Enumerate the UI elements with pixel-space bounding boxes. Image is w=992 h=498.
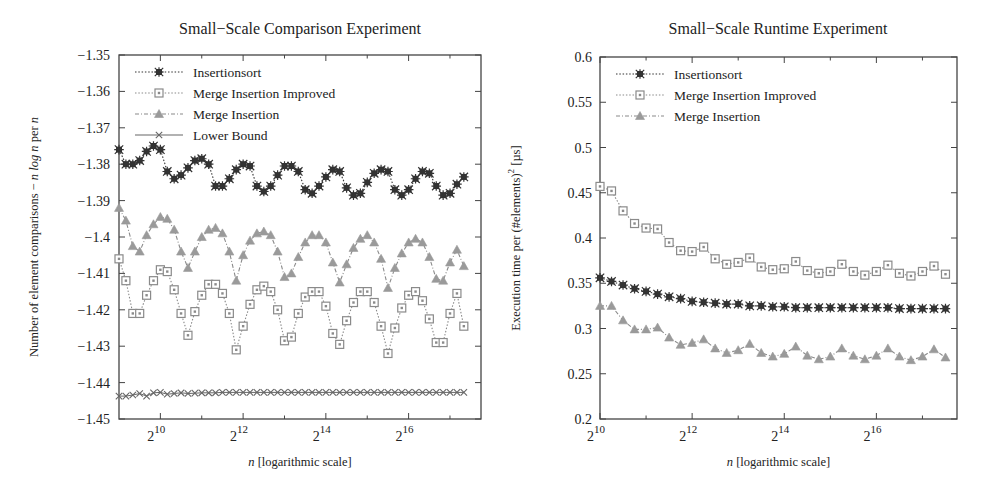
triangle-marker [425, 253, 434, 261]
star-marker-lines [154, 67, 164, 77]
triangle-marker [383, 283, 392, 291]
star-marker-lines [699, 297, 709, 307]
legend-label: Merge Insertion [674, 109, 761, 124]
star-marker-lines [273, 170, 283, 180]
triangle-marker [128, 242, 137, 250]
triangle-marker [163, 214, 172, 222]
square-marker-dot [668, 241, 670, 243]
square-marker-dot [421, 300, 423, 302]
y-tick-label: 0.45 [568, 186, 593, 201]
triangle-marker [315, 231, 324, 239]
x-axis-label: n [logarithmic scale] [248, 455, 351, 469]
star-marker-lines [356, 189, 366, 199]
legend: InsertionsortMerge Insertion ImprovedMer… [135, 65, 335, 143]
square-marker-dot [235, 349, 237, 351]
triangle-marker [287, 269, 296, 277]
legend-item: Insertionsort [616, 67, 742, 82]
square-marker-dot [829, 270, 831, 272]
legend-item: Insertionsort [135, 65, 261, 80]
square-marker-dot [702, 246, 704, 248]
triangle-marker [183, 263, 192, 271]
star-marker-lines [114, 145, 124, 155]
triangle-marker [883, 344, 892, 352]
star-marker-lines [383, 167, 393, 177]
x-tick-label: 216 [863, 423, 882, 444]
square-marker-dot [749, 257, 751, 259]
square-marker-dot [276, 309, 278, 311]
x-tick-label: 214 [771, 423, 790, 444]
square-marker-dot [944, 273, 946, 275]
triangle-marker [849, 351, 858, 359]
triangle-marker [757, 348, 766, 356]
triangle-marker [177, 247, 186, 255]
star-marker-lines [425, 169, 435, 179]
triangle-marker [895, 352, 904, 360]
square-marker-dot [463, 325, 465, 327]
square-marker-dot [921, 270, 923, 272]
x-tick-label: 212 [230, 423, 248, 444]
square-marker-dot [290, 336, 292, 338]
legend-label: Lower Bound [193, 128, 268, 143]
square-marker-dot [221, 292, 223, 294]
star-marker-lines [204, 159, 214, 169]
chart-title: Small−Scale Comparison Experiment [179, 20, 421, 38]
triangle-marker [780, 349, 789, 357]
square-marker-dot [145, 294, 147, 296]
star-marker-lines [287, 161, 297, 171]
triangle-marker [390, 263, 399, 271]
star-marker-lines [197, 154, 207, 164]
triangle-marker [301, 238, 310, 246]
triangle-marker [918, 352, 927, 360]
y-tick-label: −1.45 [78, 412, 110, 427]
runtime-chart: Small−Scale Runtime Experiment0.60.550.5… [496, 0, 992, 498]
star-marker-lines [156, 145, 166, 155]
triangle-marker [446, 258, 455, 266]
triangle-marker [225, 247, 234, 255]
y-tick-label: −1.35 [78, 48, 110, 63]
square-marker-dot [910, 275, 912, 277]
square-marker-dot [783, 268, 785, 270]
square-marker-dot [772, 268, 774, 270]
legend-label: Merge Insertion [193, 107, 280, 122]
star-marker-lines [595, 273, 605, 283]
square-marker-dot [435, 341, 437, 343]
square-marker-dot [345, 320, 347, 322]
star-marker-lines [335, 167, 345, 177]
square-marker-dot [207, 283, 209, 285]
square-marker-dot [359, 290, 361, 292]
legend-item: Merge Insertion [135, 107, 280, 122]
square-marker-dot [249, 303, 251, 305]
square-marker-dot [352, 301, 354, 303]
square-marker-dot [338, 343, 340, 345]
square-marker-dot [818, 272, 820, 274]
y-tick-label: −1.36 [78, 84, 110, 99]
triangle-marker [335, 278, 344, 286]
star-marker-lines [664, 292, 674, 302]
square-marker-dot [180, 312, 182, 314]
triangle-marker [452, 245, 461, 253]
star-marker-lines [376, 165, 386, 175]
star-marker-lines [328, 165, 338, 175]
triangle-marker [259, 227, 268, 235]
star-marker-lines [929, 304, 939, 314]
square-marker-dot [691, 250, 693, 252]
triangle-marker [142, 231, 151, 239]
triangle-marker [190, 247, 199, 255]
square-marker-dot [645, 227, 647, 229]
series-lower-bound [116, 389, 467, 399]
star-marker-lines [135, 156, 145, 166]
star-marker-lines [618, 280, 628, 290]
triangle-marker [711, 344, 720, 352]
triangle-marker [653, 323, 662, 331]
star-marker-lines [676, 294, 686, 304]
x-tick-label: 214 [313, 423, 332, 444]
comparison-chart-svg: Small−Scale Comparison Experiment−1.35−1… [0, 0, 496, 498]
y-axis-label: Execution time per (#elements)2 [µs] [506, 145, 523, 330]
y-tick-label: −1.42 [78, 303, 110, 318]
square-marker-dot [806, 269, 808, 271]
square-marker-dot [173, 289, 175, 291]
star-marker-lines [397, 190, 407, 200]
triangle-marker [232, 276, 241, 284]
star-marker-lines [349, 190, 359, 200]
triangle-marker [328, 258, 337, 266]
